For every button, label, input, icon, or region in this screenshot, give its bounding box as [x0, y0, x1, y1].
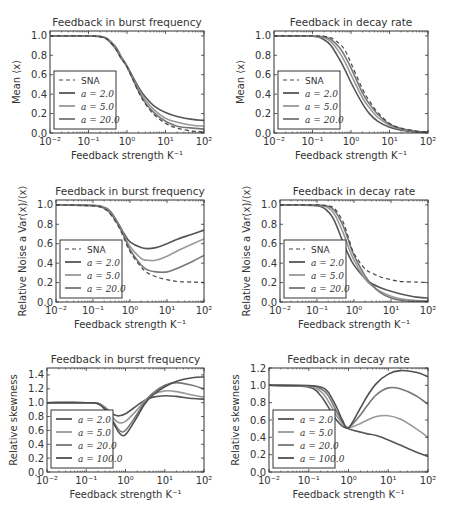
legend-entry: a = 20.0: [87, 284, 126, 294]
chart-title: Feedback in burst frequency: [55, 185, 204, 197]
y-tick-label: 1.0: [250, 380, 266, 391]
y-tick-label: 1.4: [28, 369, 44, 380]
x-axis-label: Feedback strength K⁻¹: [295, 150, 407, 161]
x-tick-label: 10⁻²: [269, 305, 291, 316]
x-axis-label: Feedback strength K⁻¹: [74, 319, 186, 330]
legend-entry: a = 2.0: [87, 258, 120, 268]
y-axis-label: Mean ⟨x⟩: [11, 60, 22, 104]
x-tick-label: 10¹: [380, 475, 397, 486]
x-tick-label: 10⁻²: [258, 475, 280, 486]
y-tick-label: 1.0: [28, 397, 44, 408]
x-axis-label: Feedback strength K⁻¹: [293, 489, 405, 500]
chart-panel-mean-burst: Feedback in burst frequency0.00.20.40.60…: [11, 16, 212, 161]
y-tick-label: 0.2: [37, 277, 53, 288]
x-tick-label: 10⁻²: [36, 475, 58, 486]
x-tick-label: 10⁰: [340, 475, 357, 486]
y-tick-label: 0.4: [37, 258, 53, 269]
legend-entry: a = 5.0: [311, 271, 344, 281]
legend-entry: a = 20.0: [305, 115, 344, 125]
chart-panel-skew-decay: Feedback in decay rate0.00.20.40.60.81.0…: [230, 353, 436, 500]
y-tick-label: 0.4: [261, 258, 277, 269]
chart-panel-noise-burst: Feedback in burst frequency0.00.20.40.60…: [17, 185, 212, 330]
y-tick-label: 0.2: [250, 449, 266, 460]
legend-entry: a = 2.0: [81, 89, 114, 99]
legend: SNAa = 2.0a = 5.0a = 20.0: [60, 240, 126, 298]
y-tick-label: 0.6: [31, 69, 47, 80]
y-tick-label: 0.8: [28, 411, 44, 422]
y-tick-label: 0.8: [37, 219, 53, 230]
x-tick-label: 10⁰: [346, 305, 363, 316]
legend-entry: a = 5.0: [81, 102, 114, 112]
figure: Feedback in burst frequency0.00.20.40.60…: [0, 0, 454, 515]
x-axis-label: Feedback strength K⁻¹: [71, 150, 183, 161]
x-tick-label: 10⁻¹: [82, 305, 104, 316]
legend-entry: a = 20.0: [81, 115, 120, 125]
x-tick-label: 10⁻¹: [75, 475, 97, 486]
x-tick-label: 10⁰: [117, 475, 134, 486]
y-axis-label: Mean ⟨x⟩: [235, 60, 246, 104]
chart-title: Feedback in burst frequency: [51, 353, 200, 365]
chart-title: Feedback in burst frequency: [52, 16, 201, 28]
y-tick-label: 0.6: [255, 69, 271, 80]
x-tick-label: 10²: [420, 305, 437, 316]
x-tick-label: 10⁻²: [45, 305, 67, 316]
legend-entry: a = 5.0: [300, 428, 333, 438]
x-tick-label: 10²: [196, 475, 213, 486]
chart-title: Feedback in decay rate: [287, 353, 409, 365]
legend-entry: a = 2.0: [311, 258, 344, 268]
x-tick-label: 10²: [196, 305, 213, 316]
legend-entry: SNA: [305, 76, 324, 86]
legend-entry: a = 2.0: [78, 415, 111, 425]
x-tick-label: 10²: [420, 475, 437, 486]
y-tick-label: 1.2: [28, 383, 44, 394]
legend-entry: a = 5.0: [87, 271, 120, 281]
chart-title: Feedback in decay rate: [293, 185, 415, 197]
legend-entry: a = 2.0: [305, 89, 338, 99]
legend-entry: a = 100.0: [300, 454, 345, 464]
legend: a = 2.0a = 5.0a = 20.0a = 100.0: [51, 410, 123, 468]
x-tick-label: 10⁻¹: [77, 136, 99, 147]
y-tick-label: 0.6: [37, 238, 53, 249]
legend-entry: SNA: [311, 245, 330, 255]
x-tick-label: 10¹: [157, 136, 174, 147]
y-tick-label: 0.2: [261, 277, 277, 288]
legend-entry: a = 5.0: [305, 102, 338, 112]
x-axis-label: Feedback strength K⁻¹: [70, 489, 182, 500]
legend-entry: SNA: [87, 245, 106, 255]
x-tick-label: 10⁰: [122, 305, 139, 316]
legend: SNAa = 2.0a = 5.0a = 20.0: [54, 71, 120, 129]
chart-panel-noise-decay: Feedback in decay rate0.00.20.40.60.81.0…: [241, 185, 436, 330]
y-tick-label: 0.8: [250, 397, 266, 408]
y-tick-label: 0.4: [28, 439, 44, 450]
chart-panel-skew-burst: Feedback in burst frequency0.00.20.40.60…: [8, 353, 212, 500]
y-tick-label: 0.2: [28, 453, 44, 464]
y-tick-label: 0.8: [261, 219, 277, 230]
x-tick-label: 10¹: [383, 305, 400, 316]
chart-panel-mean-decay: Feedback in decay rate0.00.20.40.60.81.0…: [235, 16, 436, 161]
x-tick-label: 10⁻²: [263, 136, 285, 147]
legend-entry: a = 20.0: [311, 284, 350, 294]
y-tick-label: 0.6: [261, 238, 277, 249]
y-tick-label: 1.0: [261, 199, 277, 210]
y-tick-label: 0.8: [255, 50, 271, 61]
y-tick-label: 1.0: [37, 199, 53, 210]
y-tick-label: 0.4: [255, 89, 271, 100]
y-tick-label: 1.2: [250, 363, 266, 374]
y-axis-label: Relative Noise a Var(x)/⟨x⟩: [17, 185, 28, 316]
x-tick-label: 10⁻¹: [301, 136, 323, 147]
x-tick-label: 10⁰: [119, 136, 136, 147]
x-tick-label: 10⁻¹: [306, 305, 328, 316]
x-tick-label: 10¹: [156, 475, 173, 486]
x-tick-label: 10²: [420, 136, 437, 147]
legend-entry: a = 2.0: [300, 415, 333, 425]
y-tick-label: 1.0: [255, 30, 271, 41]
x-tick-label: 10⁻²: [39, 136, 61, 147]
y-axis-label: Relative skewness: [230, 374, 241, 465]
legend-entry: a = 5.0: [78, 428, 111, 438]
chart-title: Feedback in decay rate: [290, 16, 412, 28]
y-tick-label: 0.6: [250, 415, 266, 426]
x-tick-label: 10¹: [381, 136, 398, 147]
y-axis-label: Relative skewness: [8, 374, 19, 465]
x-tick-label: 10²: [196, 136, 213, 147]
y-tick-label: 0.4: [250, 432, 266, 443]
